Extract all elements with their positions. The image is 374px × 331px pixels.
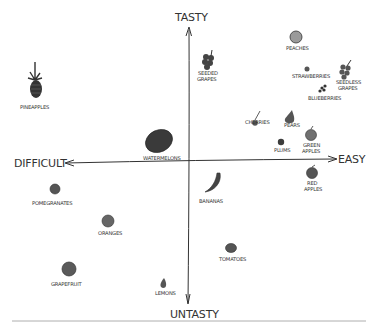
banana-icon (205, 173, 220, 192)
label-blueberries: BLUEBERRIES (308, 95, 341, 101)
point-green-apples: GREEN APPLES (302, 126, 320, 154)
point-lemons: LEMONS (155, 278, 176, 296)
point-seedless-grapes: SEEDLESS GRAPES (336, 60, 361, 91)
plum-icon (278, 139, 284, 145)
point-tomatoes: TOMATOES (218, 244, 246, 263)
label-grapefruit: GRAPEFRUIT (51, 281, 82, 287)
point-strawberries: STRAWBERRIES (292, 67, 330, 80)
orange-icon (102, 215, 114, 227)
grapes-icon (202, 50, 214, 70)
axis-label-untasty: UNTASTY (170, 308, 219, 321)
apple-icon (306, 126, 317, 141)
point-peaches: PEACHES (286, 31, 309, 51)
label-tomatoes: TOMATOES (218, 256, 246, 262)
label-oranges: ORANGES (98, 230, 122, 236)
point-pomegranates: POMEGRANATES (32, 184, 72, 206)
point-seeded-grapes: SEEDED GRAPES (197, 50, 218, 82)
fruit-chart: TASTY UNTASTY DIFFICULT EASY PINEAPPLES … (0, 0, 374, 331)
point-pears: PEARS (284, 110, 300, 128)
lemon-icon (160, 278, 166, 288)
axis-label-difficult: DIFFICULT (14, 157, 67, 170)
pineapple-icon (28, 62, 42, 98)
horizontal-axis (66, 159, 335, 163)
label-red-apples-2: APPLES (304, 186, 322, 192)
blueberries-icon (318, 84, 326, 92)
grapefruit-icon (62, 262, 76, 276)
point-plums: PLUMS (274, 139, 290, 153)
point-grapefruit: GRAPEFRUIT (51, 262, 82, 287)
vertical-axis (188, 30, 189, 303)
label-cherries: CHERRIES (245, 119, 270, 125)
point-bananas: BANANAS (199, 173, 223, 204)
label-bananas: BANANAS (199, 198, 223, 204)
point-pineapples: PINEAPPLES (20, 62, 49, 110)
label-green-apples-2: APPLES (302, 148, 320, 154)
label-seedless-grapes-2: GRAPES (338, 85, 357, 91)
point-cherries: CHERRIES (245, 111, 270, 126)
point-red-apples: RED APPLES (304, 165, 322, 192)
point-blueberries: BLUEBERRIES (308, 84, 341, 101)
axis-label-tasty: TASTY (174, 11, 208, 24)
label-pomegranates: POMEGRANATES (32, 200, 72, 206)
watermelon-icon (142, 125, 177, 157)
label-plums: PLUMS (274, 147, 290, 153)
pomegranate-icon (50, 184, 60, 194)
label-lemons: LEMONS (155, 290, 176, 296)
label-pineapples: PINEAPPLES (20, 104, 49, 110)
peach-icon (290, 31, 302, 43)
apple-icon (307, 165, 318, 179)
axis-label-easy: EASY (338, 153, 366, 166)
label-pears: PEARS (284, 122, 300, 128)
grapes-icon (339, 60, 351, 80)
label-watermelons: WATERMELONS (143, 155, 181, 161)
label-seeded-grapes-2: GRAPES (197, 76, 216, 82)
point-watermelons: WATERMELONS (142, 125, 181, 161)
label-peaches: PEACHES (286, 45, 309, 51)
label-strawberries: STRAWBERRIES (292, 73, 330, 79)
point-oranges: ORANGES (98, 215, 122, 236)
tomato-icon (226, 244, 237, 253)
strawberry-icon (305, 67, 310, 72)
